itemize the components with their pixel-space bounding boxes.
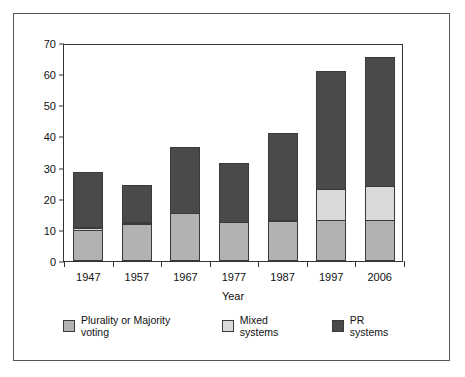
bar-stack[interactable] [268, 134, 298, 261]
legend-label: Mixed systems [240, 314, 306, 338]
legend-swatch-icon [222, 320, 234, 332]
bar-segment[interactable] [219, 222, 249, 261]
bar-segment[interactable] [170, 147, 200, 214]
y-tick-label: 40 [20, 131, 56, 143]
y-tick-label: 60 [20, 69, 56, 81]
bar-segment[interactable] [122, 224, 152, 261]
y-tick-label: 70 [20, 38, 56, 50]
legend-item[interactable]: Plurality or Majority voting [63, 314, 196, 338]
y-tick-mark [59, 230, 64, 231]
bar-segment[interactable] [219, 163, 249, 222]
y-tick-mark [59, 199, 64, 200]
y-tick-mark [59, 106, 64, 107]
bar-stack[interactable] [122, 186, 152, 261]
y-tick-label: 10 [20, 225, 56, 237]
x-tick-mark [161, 261, 162, 267]
y-tick-mark [59, 137, 64, 138]
bar-segment[interactable] [122, 185, 152, 223]
bar-segment[interactable] [268, 221, 298, 261]
bar-segment[interactable] [365, 186, 395, 220]
bar-segment[interactable] [73, 230, 103, 261]
bar-stack[interactable] [73, 173, 103, 261]
bar-stack[interactable] [219, 164, 249, 261]
bar-segment[interactable] [316, 189, 346, 221]
plot-area: 010203040506070 194719571967197719871997… [63, 44, 403, 262]
y-tick-mark [59, 44, 64, 45]
bar-segment[interactable] [316, 220, 346, 261]
x-tick-mark [64, 261, 65, 267]
legend-swatch-icon [63, 320, 75, 332]
chart-legend: Plurality or Majority votingMixed system… [63, 314, 403, 338]
legend-swatch-icon [332, 320, 344, 332]
bar-segment[interactable] [316, 71, 346, 190]
y-tick-label: 0 [20, 256, 56, 268]
y-tick-mark [59, 168, 64, 169]
y-tick-label: 30 [20, 163, 56, 175]
bar-stack[interactable] [316, 72, 346, 261]
x-tick-mark [210, 261, 211, 267]
chart-figure: 010203040506070 194719571967197719871997… [13, 13, 450, 361]
bar-segment[interactable] [365, 220, 395, 261]
x-tick-mark [404, 261, 405, 267]
legend-item[interactable]: Mixed systems [222, 314, 306, 338]
y-tick-label: 50 [20, 100, 56, 112]
bar-segment[interactable] [170, 213, 200, 261]
x-tick-mark [258, 261, 259, 267]
bar-stack[interactable] [365, 58, 395, 261]
x-tick-mark [355, 261, 356, 267]
legend-label: Plurality or Majority voting [81, 314, 196, 338]
bar-segment[interactable] [365, 57, 395, 187]
legend-label: PR systems [350, 314, 403, 338]
x-tick-mark [113, 261, 114, 267]
y-tick-label: 20 [20, 194, 56, 206]
x-tick-mark [307, 261, 308, 267]
legend-item[interactable]: PR systems [332, 314, 403, 338]
y-tick-mark [59, 75, 64, 76]
x-axis-title: Year [63, 290, 403, 302]
x-tick-label: 2006 [350, 271, 410, 283]
bar-segment[interactable] [73, 172, 103, 228]
bar-stack[interactable] [170, 148, 200, 261]
bar-segment[interactable] [268, 133, 298, 221]
